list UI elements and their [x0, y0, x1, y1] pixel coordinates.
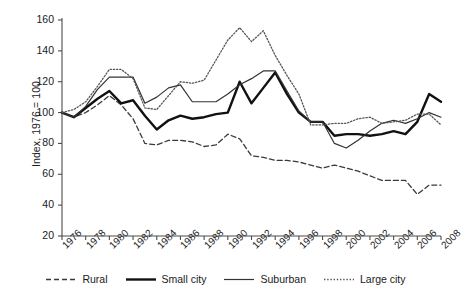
series-line-rural	[62, 96, 441, 195]
legend-label: Small city	[162, 273, 207, 285]
thin-solid-line-swatch	[223, 275, 255, 284]
axis-spines	[62, 18, 441, 236]
dashed-line-swatch	[45, 275, 77, 284]
series-line-suburban	[62, 71, 441, 148]
legend-item-suburban[interactable]: Suburban	[223, 273, 306, 285]
legend-item-large-city[interactable]: Large city	[323, 273, 406, 285]
legend-item-small-city[interactable]: Small city	[125, 273, 207, 285]
legend-label: Suburban	[260, 273, 306, 285]
legend-label: Rural	[82, 273, 107, 285]
series-line-large-city	[62, 28, 441, 125]
series-line-small-city	[62, 72, 441, 135]
dotted-line-swatch	[323, 275, 355, 284]
legend-label: Large city	[360, 273, 406, 285]
chart-legend: RuralSmall citySuburbanLarge city	[0, 268, 451, 290]
thick-solid-line-swatch	[125, 275, 157, 284]
legend-item-rural[interactable]: Rural	[45, 273, 107, 285]
